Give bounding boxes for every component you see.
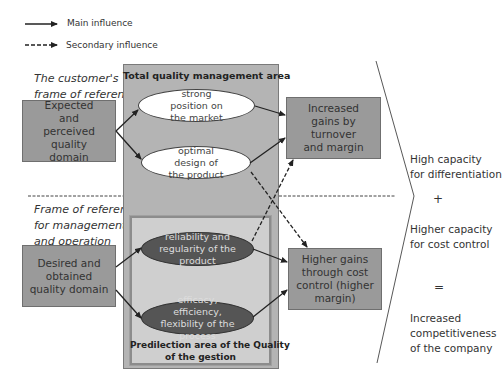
equals-sign: = [434,280,444,294]
differentiation-text: High capacity for differentiation [410,152,502,182]
competitiveness-line-3: of the company [410,341,496,356]
cost-control-text: Higher capacity for cost control [410,222,493,252]
strong-position-label: strong position on the market [167,88,226,124]
increased-gains-box: Increased gains by turnover and margin [286,97,381,159]
ellipse-efficacy: efficacy, efficiency, flexibility of the… [141,301,254,335]
legend-main-label: Main influence [67,18,133,28]
reliability-label: reliability and regularity of the produc… [156,231,239,267]
optimal-design-label: optimal design of the product [168,145,224,181]
expected-quality-box: Expected and perceived quality domain [22,100,116,162]
plus-sign: + [433,192,443,206]
higher-gains-label: Higher gains through cost control (highe… [291,253,379,305]
desired-quality-box: Desired and obtained quality domain [22,245,116,307]
ellipse-optimal-design: optimal design of the product [141,146,251,179]
desired-quality-label: Desired and obtained quality domain [27,257,111,296]
customer-frame-line-1: The customer's [34,71,137,87]
tqm-area-title: Total quality management area [123,69,279,83]
increased-gains-label: Increased gains by turnover and margin [301,102,366,154]
right-bracket [376,61,414,363]
ellipse-strong-position: strong position on the market [138,89,255,122]
competitiveness-line-1: Increased [410,311,496,326]
predilection-title-line-2: of the gestion [130,351,271,363]
expected-quality-label: Expected and perceived quality domain [37,99,101,164]
competitiveness-text: Increased competitiveness of the company [410,311,496,356]
cost-control-line-2: for cost control [410,237,493,252]
predilection-area-title: Predilection area of the Quality of the … [130,339,271,363]
legend-secondary-label: Secondary influence [66,40,158,50]
differentiation-line-2: for differentiation [410,167,502,182]
efficacy-label: efficacy, efficiency, flexibility of the… [154,294,241,342]
competitiveness-line-2: competitiveness [410,326,496,341]
cost-control-line-1: Higher capacity [410,222,493,237]
higher-gains-box: Higher gains through cost control (highe… [288,248,382,310]
differentiation-line-1: High capacity [410,152,502,167]
ellipse-reliability: reliability and regularity of the produc… [141,232,254,266]
